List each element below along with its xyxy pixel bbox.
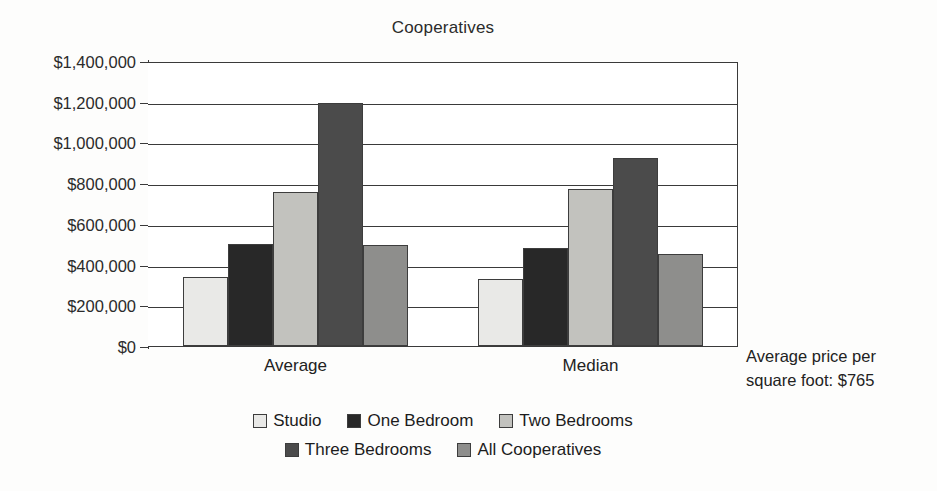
y-axis-tick-label: $800,000 <box>4 175 136 194</box>
bar-two-bedrooms-average <box>273 192 318 346</box>
bar-studio-average <box>183 277 228 346</box>
bar-all-cooperatives-median <box>658 254 703 346</box>
y-axis-tick-label: $200,000 <box>4 297 136 316</box>
y-axis-tick-label: $0 <box>4 338 136 357</box>
legend-item-one-bedroom[interactable]: One Bedroom <box>347 411 473 431</box>
legend-row-2: Three BedroomsAll Cooperatives <box>148 435 738 464</box>
legend-item-three-bedrooms[interactable]: Three Bedrooms <box>285 440 432 460</box>
legend-item-studio[interactable]: Studio <box>253 411 321 431</box>
cooperatives-bar-chart: Cooperatives $1,400,000$1,200,000$1,000,… <box>0 0 937 491</box>
legend-label: One Bedroom <box>367 411 473 431</box>
bar-three-bedrooms-average <box>318 103 363 346</box>
bar-studio-median <box>478 279 523 346</box>
price-per-square-foot-line2: square foot: $765 <box>746 369 931 393</box>
y-axis-tick-label: $1,200,000 <box>4 93 136 112</box>
legend-swatch-icon <box>457 443 471 457</box>
legend-label: Three Bedrooms <box>305 440 432 460</box>
price-per-square-foot-line1: Average price per <box>746 345 931 369</box>
y-axis-labels: $1,400,000$1,200,000$1,000,000$800,000$6… <box>0 0 136 491</box>
bar-all-cooperatives-average <box>363 245 408 346</box>
bar-one-bedroom-average <box>228 244 273 346</box>
legend-swatch-icon <box>499 414 513 428</box>
bar-three-bedrooms-median <box>613 158 658 346</box>
y-axis-tick-label: $1,000,000 <box>4 134 136 153</box>
price-per-square-foot-note: Average price per square foot: $765 <box>746 345 931 393</box>
y-axis-tick-label: $400,000 <box>4 256 136 275</box>
legend-row-1: StudioOne BedroomTwo Bedrooms <box>148 406 738 435</box>
chart-legend: StudioOne BedroomTwo Bedrooms Three Bedr… <box>148 406 738 464</box>
legend-label: Two Bedrooms <box>519 411 632 431</box>
category-label-median: Median <box>443 356 738 376</box>
plot-area <box>148 62 738 347</box>
legend-label: Studio <box>273 411 321 431</box>
y-axis-tick-label: $600,000 <box>4 215 136 234</box>
legend-swatch-icon <box>347 414 361 428</box>
y-axis-tick-label: $1,400,000 <box>4 53 136 72</box>
legend-item-two-bedrooms[interactable]: Two Bedrooms <box>499 411 632 431</box>
legend-item-all-cooperatives[interactable]: All Cooperatives <box>457 440 601 460</box>
gridline <box>148 104 737 105</box>
legend-swatch-icon <box>285 443 299 457</box>
legend-swatch-icon <box>253 414 267 428</box>
legend-label: All Cooperatives <box>477 440 601 460</box>
chart-title: Cooperatives <box>148 18 738 38</box>
bar-two-bedrooms-median <box>568 189 613 346</box>
category-label-average: Average <box>148 356 443 376</box>
gridline <box>148 144 737 145</box>
bar-one-bedroom-median <box>523 248 568 346</box>
